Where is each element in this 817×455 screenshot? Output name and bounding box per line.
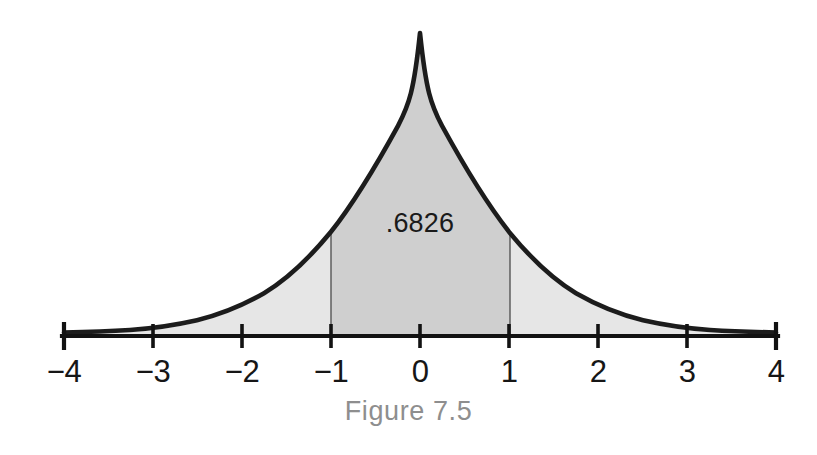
- x-tick-label-zero: 0: [412, 354, 429, 389]
- x-tick-label-two: 2: [590, 354, 607, 389]
- normal-distribution-chart: −4 −3 −2 −1 0 1 2 3 4 .6826: [0, 0, 817, 455]
- x-axis-tick-labels-group: −4 −3 −2 −1 0 1 2 3 4: [47, 354, 785, 389]
- x-tick-label-minus4: −4: [47, 354, 82, 389]
- x-tick-label-minus2: −2: [225, 354, 259, 389]
- figure-caption: Figure 7.5: [0, 398, 817, 425]
- x-tick-label-three: 3: [679, 354, 696, 389]
- figure-container: −4 −3 −2 −1 0 1 2 3 4 .6826 Figure 7.5: [0, 0, 817, 455]
- shaded-areas-group: [64, 35, 776, 335]
- central-area: [64, 35, 776, 335]
- x-tick-label-four: 4: [768, 354, 785, 389]
- x-tick-label-minus3: −3: [136, 354, 170, 389]
- x-tick-label-one: 1: [501, 354, 518, 389]
- x-tick-label-minus1: −1: [314, 354, 348, 389]
- central-probability-label: .6826: [386, 208, 455, 238]
